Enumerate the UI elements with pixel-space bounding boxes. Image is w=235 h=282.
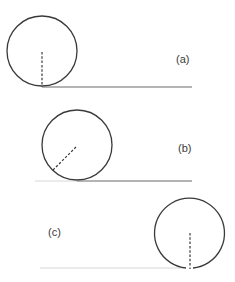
panel-a: (a) [7,16,192,87]
label-b: (b) [178,142,191,154]
panel-c: (c) [40,198,225,269]
radius-marker-b [52,147,76,171]
label-c: (c) [48,226,61,238]
panel-b: (b) [35,110,192,181]
rolling-circle-diagram: (a) (b) (c) [0,0,235,282]
label-a: (a) [176,53,189,65]
circle-b [42,110,112,180]
